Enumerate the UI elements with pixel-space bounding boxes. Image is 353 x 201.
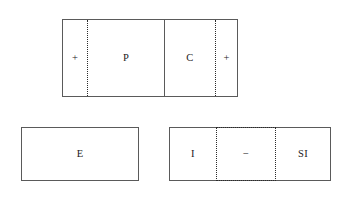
cell-e: E xyxy=(22,128,138,180)
cell-minus-label: − xyxy=(243,149,249,160)
cell-c: C xyxy=(165,20,216,96)
cell-plus-left-label: + xyxy=(72,53,78,64)
cell-si: SI xyxy=(276,128,330,180)
cell-i: I xyxy=(170,128,216,180)
cell-plus-right-label: + xyxy=(223,53,229,64)
cell-si-label: SI xyxy=(298,149,308,160)
cell-plus-right: + xyxy=(216,20,237,96)
diagram-canvas: + P C + E I − SI xyxy=(0,0,353,201)
cell-i-label: I xyxy=(191,149,195,160)
cell-plus-left: + xyxy=(63,20,88,96)
bottom-left-rectangle: E xyxy=(21,127,139,181)
top-rectangle: + P C + xyxy=(62,19,238,97)
cell-minus: − xyxy=(216,127,276,181)
cell-c-label: C xyxy=(186,53,193,64)
cell-e-label: E xyxy=(77,149,84,160)
bottom-right-rectangle: I − SI xyxy=(169,127,331,181)
cell-p-label: P xyxy=(123,53,129,64)
cell-p: P xyxy=(88,20,165,96)
